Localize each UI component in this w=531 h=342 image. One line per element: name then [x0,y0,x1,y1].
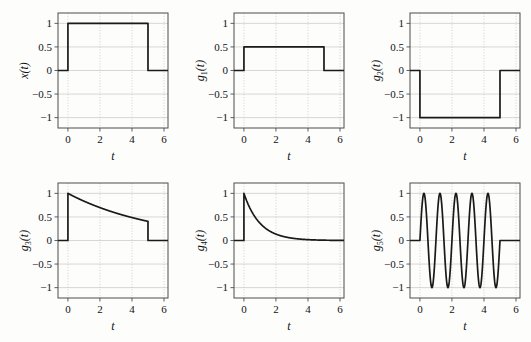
x-tick-label: 0 [65,303,71,315]
plot-canvas: 0246−1−0.500.51tg1(t) [176,0,353,171]
y-tick-label: 1 [399,17,405,29]
x-tick-label: 2 [273,303,279,315]
plot-panel-g4: 0246−1−0.500.51tg4(t) [176,170,353,341]
y-axis-label: g2(t) [369,60,385,81]
x-tick-label: 2 [97,303,103,315]
y-tick-label: 1 [399,187,405,199]
y-tick-label: −0.5 [32,258,52,270]
plot-canvas: 0246−1−0.500.51tx(t) [0,0,177,171]
x-tick-label: 0 [241,303,247,315]
y-tick-label: 1 [223,187,229,199]
y-tick-label: 0 [399,234,405,246]
x-tick-label: 6 [337,303,343,315]
x-tick-label: 6 [161,133,167,145]
x-tick-label: 6 [513,133,519,145]
y-tick-label: 0.5 [214,211,228,223]
x-tick-label: 0 [417,133,423,145]
y-tick-label: 0.5 [390,41,404,53]
y-tick-label: 0 [399,64,405,76]
y-tick-label: −0.5 [208,258,228,270]
y-tick-label: 0 [223,64,229,76]
y-tick-label: 0.5 [214,41,228,53]
y-tick-label: 0.5 [390,211,404,223]
x-tick-label: 2 [97,133,103,145]
plot-canvas: 0246−1−0.500.51tg3(t) [0,170,177,341]
x-tick-label: 0 [65,133,71,145]
x-tick-label: 4 [481,133,487,145]
y-tick-label: 0.5 [38,211,52,223]
y-axis-label: g1(t) [193,60,209,81]
y-tick-label: −0.5 [32,88,52,100]
y-tick-label: −1 [40,111,52,123]
y-tick-label: 0 [223,234,229,246]
plot-canvas: 0246−1−0.500.51tg4(t) [176,170,353,341]
x-tick-label: 6 [161,303,167,315]
y-tick-label: −1 [216,111,228,123]
x-tick-label: 4 [129,133,135,145]
x-tick-label: 2 [449,303,455,315]
x-axis-label: t [463,149,467,163]
y-tick-label: −0.5 [384,88,404,100]
y-tick-label: −1 [216,281,228,293]
y-axis-label: g3(t) [17,230,33,251]
x-tick-label: 0 [241,133,247,145]
tick-marks [231,23,341,131]
y-tick-label: 0.5 [38,41,52,53]
tick-marks [231,193,341,301]
x-tick-label: 6 [337,133,343,145]
y-tick-label: −1 [392,111,404,123]
y-axis-label: g4(t) [193,230,209,251]
y-tick-label: 0 [47,64,53,76]
y-tick-label: −1 [40,281,52,293]
plot-panel-g3: 0246−1−0.500.51tg3(t) [0,170,177,341]
plot-panel-g2: 0246−1−0.500.51tg2(t) [352,0,529,171]
y-axis-label: g5(t) [369,230,385,251]
x-tick-label: 6 [513,303,519,315]
x-tick-label: 4 [305,303,311,315]
y-tick-label: −0.5 [208,88,228,100]
plot-canvas: 0246−1−0.500.51tg5(t) [352,170,529,341]
y-tick-label: −1 [392,281,404,293]
y-tick-label: 1 [47,17,53,29]
y-tick-label: 1 [47,187,53,199]
x-tick-label: 2 [449,133,455,145]
x-tick-label: 4 [481,303,487,315]
x-axis-label: t [463,319,467,333]
y-tick-label: 1 [223,17,229,29]
plot-panel-g5: 0246−1−0.500.51tg5(t) [352,170,529,341]
x-tick-label: 4 [129,303,135,315]
x-axis-label: t [287,149,291,163]
plot-panel-g1: 0246−1−0.500.51tg1(t) [176,0,353,171]
tick-marks [55,193,165,301]
x-tick-label: 0 [417,303,423,315]
x-axis-label: t [287,319,291,333]
x-tick-label: 2 [273,133,279,145]
y-axis-label: x(t) [17,62,31,80]
x-tick-label: 4 [305,133,311,145]
plot-panel-x: 0246−1−0.500.51tx(t) [0,0,177,171]
x-axis-label: t [111,319,115,333]
signal-curve [234,47,344,71]
signal-plots-figure: 0246−1−0.500.51tx(t)0246−1−0.500.51tg1(t… [0,0,531,342]
y-tick-label: −0.5 [384,258,404,270]
y-tick-label: 0 [47,234,53,246]
x-axis-label: t [111,149,115,163]
plot-canvas: 0246−1−0.500.51tg2(t) [352,0,529,171]
